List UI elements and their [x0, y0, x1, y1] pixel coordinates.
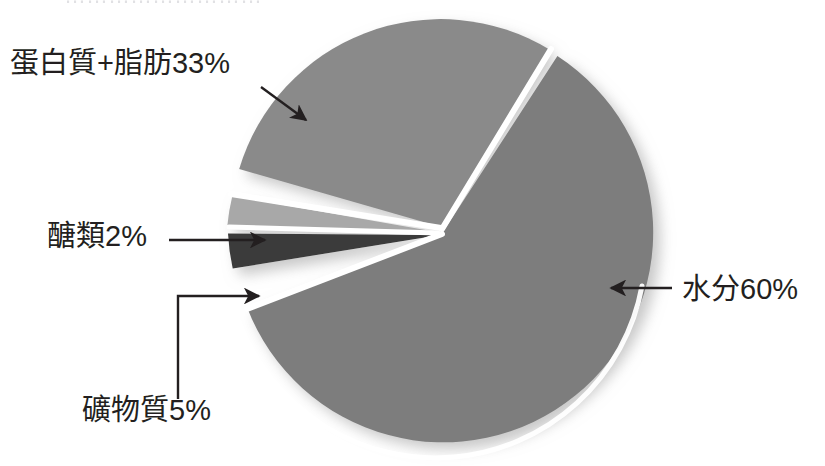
pie-chart-figure: ………………………: [0, 0, 825, 466]
slice-label-water: 水分60%: [682, 275, 798, 304]
slice-label-mineral: 礦物質5%: [82, 396, 211, 425]
slice-label-protein-fat: 蛋白質+脂肪33%: [10, 49, 230, 78]
slice-label-sugar: 醣類2%: [47, 222, 147, 251]
